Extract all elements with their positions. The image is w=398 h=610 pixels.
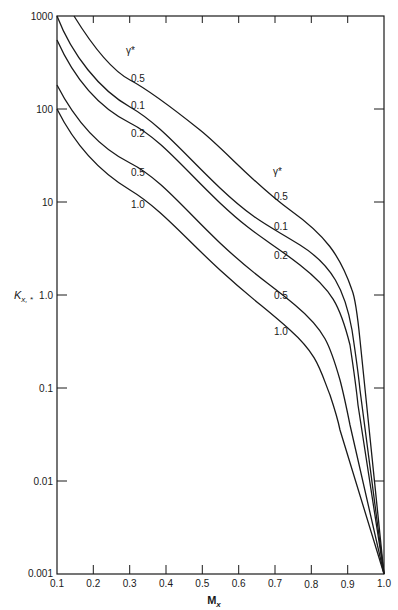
curve-label: 0.5 (131, 167, 145, 178)
plot-frame (57, 16, 384, 574)
curve-label: 0.5 (274, 290, 288, 301)
y-ticks (57, 109, 384, 481)
curve-gamma-0.5-upper (74, 16, 384, 574)
curve-label: 0.5 (274, 191, 288, 202)
curve-labels-left: γ* 0.5 0.1 0.2 0.5 1.0 (126, 45, 145, 210)
x-axis-title: Mx (207, 594, 221, 609)
x-tick-label: 0.1 (50, 578, 64, 589)
curve-label: 0.5 (131, 73, 145, 84)
y-tick-label: 0.01 (34, 476, 54, 487)
y-tick-label: 1.0 (39, 290, 53, 301)
x-tick-labels: 0.1 0.2 0.3 0.4 0.5 0.6 0.7 0.8 0.9 1.0 (50, 578, 391, 590)
curve-label: 1.0 (274, 326, 288, 337)
curve-gamma-0.2 (57, 40, 384, 574)
x-ticks-bottom (93, 565, 347, 574)
curve-labels-right: γ* 0.5 0.1 0.2 0.5 1.0 (273, 166, 288, 337)
y-tick-label: 0.1 (39, 383, 53, 394)
y-axis-title: Kx, * (14, 289, 34, 304)
curve-label: 1.0 (131, 199, 145, 210)
x-tick-label: 0.3 (123, 578, 137, 589)
curves (57, 16, 384, 574)
x-tick-label: 0.5 (195, 578, 209, 589)
curve-label: 0.2 (131, 128, 145, 139)
curve-gamma-1.0 (57, 109, 384, 574)
chart-canvas: 1000 100 10 1.0 0.1 0.01 0.001 0.1 0.2 0… (0, 0, 398, 610)
x-tick-label: 0.2 (86, 578, 100, 589)
gamma-header-left: γ* (126, 45, 135, 56)
x-tick-label: 0.8 (304, 579, 318, 590)
x-ticks-top (93, 16, 347, 23)
curve-gamma-0.1 (57, 16, 384, 574)
y-tick-label: 10 (42, 197, 54, 208)
gamma-header-right: γ* (273, 166, 282, 177)
x-tick-label: 1.0 (377, 578, 391, 589)
x-tick-label: 0.9 (341, 579, 355, 590)
curve-gamma-0.5-lower (57, 85, 384, 574)
x-tick-label: 0.6 (232, 578, 246, 589)
y-tick-label: 100 (36, 104, 53, 115)
curve-label: 0.2 (274, 250, 288, 261)
x-tick-label: 0.7 (268, 578, 282, 589)
y-tick-label: 1000 (31, 11, 54, 22)
x-tick-label: 0.4 (159, 578, 173, 589)
curve-label: 0.1 (131, 100, 145, 111)
curve-label: 0.1 (274, 221, 288, 232)
